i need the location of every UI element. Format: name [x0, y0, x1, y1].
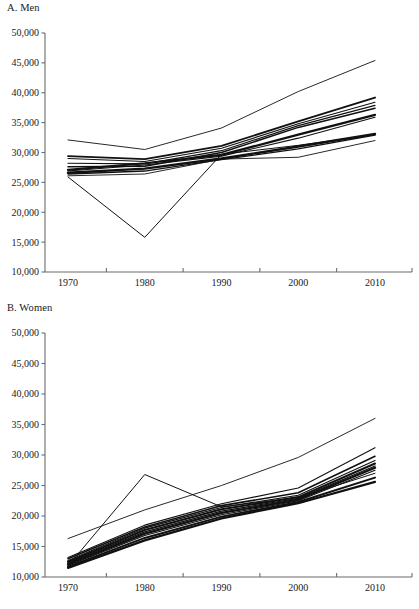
y-tick-label: 15,000: [12, 541, 40, 552]
y-tick-label: 45,000: [12, 57, 40, 68]
x-tick-label: 1990: [212, 277, 232, 288]
y-tick-label: 15,000: [12, 237, 40, 248]
x-tick-label: 2010: [365, 277, 385, 288]
y-tick-label: 10,000: [12, 266, 40, 277]
y-tick-label: 20,000: [12, 510, 40, 521]
x-tick-label: 1980: [135, 582, 155, 593]
y-tick-label: 25,000: [12, 177, 40, 188]
y-tick-label: 45,000: [12, 358, 40, 369]
plot-area-men: 10,00015,00020,00025,00030,00035,00040,0…: [0, 0, 419, 309]
y-tick-label: 50,000: [12, 27, 40, 38]
x-tick-label: 1970: [58, 277, 78, 288]
x-tick-label: 2010: [365, 582, 385, 593]
series-line-series-10: [68, 482, 375, 568]
x-tick-label: 1990: [212, 582, 232, 593]
y-tick-label: 25,000: [12, 480, 40, 491]
y-tick-label: 40,000: [12, 388, 40, 399]
series-line-series-1: [68, 60, 375, 149]
series-line-series-9: [68, 478, 375, 567]
y-tick-label: 35,000: [12, 117, 40, 128]
series-line-series-11-outlier: [68, 135, 375, 238]
x-tick-label: 2000: [288, 277, 308, 288]
y-tick-label: 40,000: [12, 87, 40, 98]
line-plot-svg-men: 10,00015,00020,00025,00030,00035,00040,0…: [0, 0, 419, 305]
line-plot-svg-women: 10,00015,00020,00025,00030,00035,00040,0…: [0, 300, 419, 609]
two-panel-line-chart-figure: A. Men 10,00015,00020,00025,00030,00035,…: [0, 0, 419, 609]
series-line-series-7: [68, 117, 375, 171]
x-tick-label: 2000: [288, 582, 308, 593]
y-tick-label: 10,000: [12, 571, 40, 582]
chart-panel-women: B. Women 10,00015,00020,00025,00030,0003…: [0, 300, 419, 609]
plot-area-women: 10,00015,00020,00025,00030,00035,00040,0…: [0, 300, 419, 609]
y-tick-label: 20,000: [12, 207, 40, 218]
x-tick-label: 1970: [58, 582, 78, 593]
y-tick-label: 35,000: [12, 419, 40, 430]
chart-panel-men: A. Men 10,00015,00020,00025,00030,00035,…: [0, 0, 419, 305]
y-tick-label: 30,000: [12, 147, 40, 158]
y-tick-label: 30,000: [12, 449, 40, 460]
y-tick-label: 50,000: [12, 327, 40, 338]
x-tick-label: 1980: [135, 277, 155, 288]
